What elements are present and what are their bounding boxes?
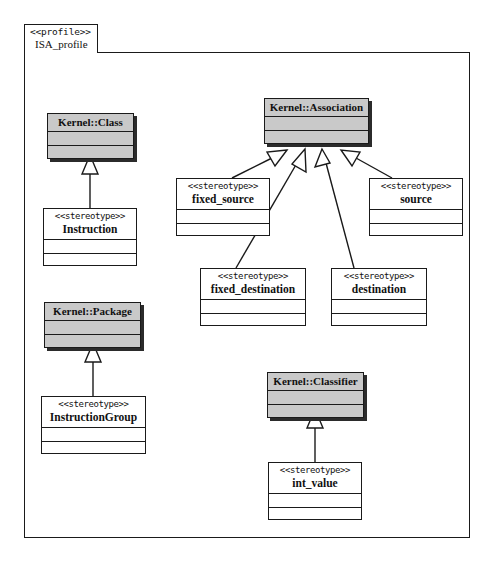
stereotype-fixed-destination-name: fixed_destination (203, 282, 303, 296)
stereotype-keyword: <<stereotype>> (334, 271, 424, 282)
metaclass-compartment-attributes (45, 321, 140, 335)
metaclass-kernel-association[interactable]: Kernel::Association (264, 98, 369, 144)
metaclass-kernel-classifier-name: Kernel::Classifier (268, 373, 363, 391)
metaclass-compartment-operations (45, 335, 140, 348)
stereotype-source[interactable]: <<stereotype>> source (369, 178, 463, 236)
profile-keyword: <<profile>> (30, 26, 97, 38)
stereotype-destination[interactable]: <<stereotype>> destination (331, 268, 427, 326)
metaclass-compartment-operations (48, 146, 133, 159)
stereotype-instruction[interactable]: <<stereotype>> Instruction (43, 208, 137, 266)
stereotype-source-name: source (372, 192, 460, 206)
stereotype-compartment-operations (42, 442, 145, 455)
profile-frame-label: <<profile>> ISA_profile (24, 24, 98, 53)
metaclass-kernel-classifier[interactable]: Kernel::Classifier (267, 372, 364, 418)
stereotype-compartment-attributes (201, 300, 305, 314)
metaclass-kernel-association-name: Kernel::Association (265, 99, 368, 117)
stereotype-compartment-operations (269, 508, 361, 521)
stereotype-compartment-attributes (332, 300, 426, 314)
stereotype-destination-header: <<stereotype>> destination (332, 269, 426, 300)
stereotype-keyword: <<stereotype>> (179, 181, 267, 192)
stereotype-fixed-destination[interactable]: <<stereotype>> fixed_destination (200, 268, 306, 326)
stereotype-compartment-attributes (42, 428, 145, 442)
metaclass-kernel-package-name: Kernel::Package (45, 303, 140, 321)
stereotype-keyword: <<stereotype>> (372, 181, 460, 192)
stereotype-int-value-name: int_value (271, 476, 359, 490)
stereotype-keyword: <<stereotype>> (44, 399, 143, 410)
stereotype-int-value[interactable]: <<stereotype>> int_value (268, 462, 362, 520)
stereotype-destination-name: destination (334, 282, 424, 296)
stereotype-instruction-group[interactable]: <<stereotype>> InstructionGroup (41, 396, 146, 454)
stereotype-compartment-operations (370, 224, 462, 237)
profile-name: ISA_profile (30, 38, 97, 51)
metaclass-compartment-operations (268, 405, 363, 418)
stereotype-fixed-source[interactable]: <<stereotype>> fixed_source (176, 178, 270, 236)
stereotype-compartment-attributes (269, 494, 361, 508)
metaclass-compartment-operations (265, 131, 368, 144)
stereotype-instruction-group-header: <<stereotype>> InstructionGroup (42, 397, 145, 428)
stereotype-keyword: <<stereotype>> (46, 211, 134, 222)
stereotype-fixed-destination-header: <<stereotype>> fixed_destination (201, 269, 305, 300)
stereotype-instruction-name: Instruction (46, 222, 134, 236)
stereotype-fixed-source-name: fixed_source (179, 192, 267, 206)
stereotype-compartment-attributes (177, 210, 269, 224)
metaclass-kernel-class[interactable]: Kernel::Class (47, 113, 134, 159)
metaclass-compartment-attributes (268, 391, 363, 405)
stereotype-instruction-header: <<stereotype>> Instruction (44, 209, 136, 240)
stereotype-compartment-operations (332, 314, 426, 327)
stereotype-compartment-operations (201, 314, 305, 327)
metaclass-compartment-attributes (48, 132, 133, 146)
stereotype-keyword: <<stereotype>> (271, 465, 359, 476)
stereotype-compartment-operations (44, 254, 136, 267)
stereotype-source-header: <<stereotype>> source (370, 179, 462, 210)
metaclass-kernel-package[interactable]: Kernel::Package (44, 302, 141, 348)
stereotype-keyword: <<stereotype>> (203, 271, 303, 282)
stereotype-compartment-attributes (44, 240, 136, 254)
stereotype-fixed-source-header: <<stereotype>> fixed_source (177, 179, 269, 210)
diagram-canvas: <<profile>> ISA_profile Kernel::Class Ke… (0, 0, 493, 567)
stereotype-instruction-group-name: InstructionGroup (44, 410, 143, 424)
stereotype-int-value-header: <<stereotype>> int_value (269, 463, 361, 494)
stereotype-compartment-operations (177, 224, 269, 237)
metaclass-kernel-class-name: Kernel::Class (48, 114, 133, 132)
metaclass-compartment-attributes (265, 117, 368, 131)
stereotype-compartment-attributes (370, 210, 462, 224)
